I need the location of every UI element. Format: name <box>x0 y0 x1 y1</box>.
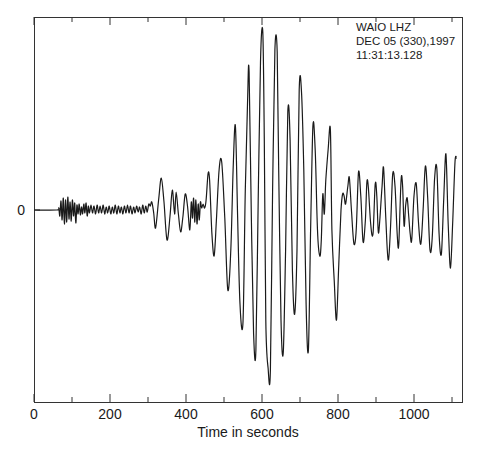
y-zero-label: 0 <box>17 202 25 218</box>
x-tick-label: 1000 <box>398 406 429 422</box>
seismogram-chart: 02004006008001000 0 Time in seconds <box>0 0 490 472</box>
event-date: DEC 05 (330),1997 <box>356 34 455 48</box>
x-tick-label: 600 <box>250 406 274 422</box>
seismogram-trace <box>34 27 457 384</box>
x-tick-label: 400 <box>174 406 198 422</box>
x-tick-label: 200 <box>98 406 122 422</box>
station-annotation: WAIO LHZ DEC 05 (330),1997 11:31:13.128 <box>356 20 455 62</box>
event-time: 11:31:13.128 <box>356 48 455 62</box>
station-code: WAIO LHZ <box>356 20 455 34</box>
x-tick-label: 800 <box>326 406 350 422</box>
x-axis-title: Time in seconds <box>197 424 298 440</box>
x-axis-tick-labels: 02004006008001000 <box>30 406 430 422</box>
x-tick-label: 0 <box>30 406 38 422</box>
